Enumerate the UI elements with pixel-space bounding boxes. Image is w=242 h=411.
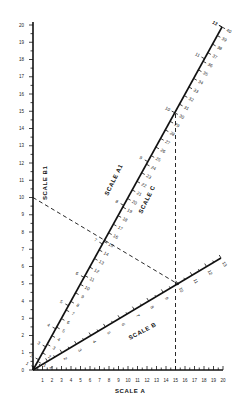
scale-c-tick-label: 6 xyxy=(75,271,80,277)
scale-a1-tick xyxy=(217,36,220,38)
scale-a1-tick-label: 21 xyxy=(136,190,143,197)
scale-c-tick-label: 11 xyxy=(194,52,201,59)
scale-a1-tick xyxy=(109,233,112,235)
scale-a1-tick-label: 12 xyxy=(93,268,100,275)
scale-a1-tick-label: 35 xyxy=(202,70,209,77)
scale-a1-tick-label: 17 xyxy=(117,225,124,232)
scale-a1-tick xyxy=(76,293,79,295)
scale-b-tick xyxy=(46,358,48,361)
scale-a1-tick xyxy=(52,336,55,338)
scale-a-tick-label: 3 xyxy=(60,378,63,383)
scale-a-tick-label: 15 xyxy=(173,378,179,383)
scale-a1-tick-label: 14 xyxy=(103,250,110,257)
scale-b-tick-label: 5 xyxy=(106,331,112,336)
scale-c-tick-label: 3 xyxy=(36,340,41,346)
scale-b-tick xyxy=(205,264,207,267)
scale-a1-tick xyxy=(94,259,97,261)
scale-a-tick-label: 4 xyxy=(70,378,73,383)
scale-a-tick-label: 20 xyxy=(220,378,226,383)
scale-b-tick-label: 8 xyxy=(149,305,155,310)
scale-a1-tick xyxy=(161,138,164,140)
scale-c-tick xyxy=(81,276,84,278)
scale-a1-tick-label: 3 xyxy=(52,345,57,351)
axes-group xyxy=(33,22,223,370)
scale-a1-tick-label: 19 xyxy=(126,208,133,215)
scale-c-tick xyxy=(145,160,148,162)
scale-a1-tick-label: 20 xyxy=(131,199,138,206)
scale-a1-tick xyxy=(142,173,145,175)
scale-a1-tick xyxy=(189,87,192,89)
scale-a1-tick-label: 33 xyxy=(193,88,200,95)
scale-b-tick xyxy=(132,307,134,310)
scale-b-tick-label: 13 xyxy=(221,261,228,268)
scale-a1-tick-label: 34 xyxy=(197,79,204,86)
scale-a1-tick-label: 30 xyxy=(178,113,185,120)
scale-b-tick xyxy=(219,255,221,258)
scale-a1-tick xyxy=(151,156,154,158)
scale-b1-tick-label: 19 xyxy=(19,40,25,45)
scale-b-tick-label: 6 xyxy=(121,322,127,327)
scale-a-tick-label: 12 xyxy=(144,378,150,383)
scale-a1-tick xyxy=(170,121,173,123)
scale-a1-tick-label: 9 xyxy=(80,294,85,300)
scale-a-tick-label: 9 xyxy=(117,378,120,383)
scale-a1-tick xyxy=(222,27,225,29)
scale-a-tick-label: 2 xyxy=(51,378,54,383)
scale-a1-tick xyxy=(123,207,126,209)
scale-b1-tick-label: 2 xyxy=(21,333,24,338)
scale-c-tick xyxy=(121,204,124,206)
scale-c-tick-label: 8 xyxy=(114,199,119,205)
scale-a1-tick-label: 39 xyxy=(221,36,228,43)
scale-a1-tick xyxy=(80,284,83,286)
scale-b1-tick-label: 0 xyxy=(21,368,24,373)
scale-c-tick-label: 13 xyxy=(212,20,219,27)
scale-b-tick xyxy=(161,289,163,292)
scale-b-tick-label: 4 xyxy=(92,339,98,344)
scale-a1-title: SCALE A1 xyxy=(104,163,124,196)
scale-a1-tick xyxy=(213,44,216,46)
scale-a1-tick-label: 4 xyxy=(57,337,62,343)
scale-a1-tick-label: 37 xyxy=(211,53,218,60)
scale-a-tick-label: 6 xyxy=(89,378,92,383)
scale-a-tick-label: 19 xyxy=(211,378,217,383)
scale-c-tick xyxy=(65,304,68,306)
scale-a1-tick-label: 6 xyxy=(66,320,71,326)
scale-a1-tick-label: 22 xyxy=(141,182,148,189)
scale-b-tick-label: 10 xyxy=(178,286,185,293)
scale-b1-title: SCALE B1 xyxy=(42,165,48,200)
scale-b1-tick-label: 8 xyxy=(21,230,24,235)
scale-b1-tick-label: 6 xyxy=(21,264,24,269)
scale-b-tick xyxy=(60,350,62,353)
scale-b-tick xyxy=(147,298,149,301)
scale-b-tick-label: 11 xyxy=(192,278,199,285)
scale-a1-tick xyxy=(85,276,88,278)
scale-b1-tick-label: 11 xyxy=(19,178,24,183)
scale-b1-tick-label: 18 xyxy=(19,57,25,62)
scale-b1-tick-label: 7 xyxy=(21,247,24,252)
scale-a1-tick xyxy=(118,216,121,218)
scale-a1-tick-label: 25 xyxy=(155,156,162,163)
scale-a1-tick-label: 8 xyxy=(76,302,81,308)
scale-a1-tick-label: 31 xyxy=(183,105,190,112)
scale-c-tick-label: 9 xyxy=(139,155,144,161)
scale-b1-tick-label: 10 xyxy=(19,195,25,200)
scale-b-tick xyxy=(104,324,106,327)
scale-a-tick-label: 13 xyxy=(154,378,160,383)
scale-a1-tick-label: 10 xyxy=(84,285,91,292)
scale-a-tick-label: 5 xyxy=(79,378,82,383)
ticks-group xyxy=(29,25,225,370)
scale-a1-tick xyxy=(198,70,201,72)
scale-c-tick-label: 1 xyxy=(25,361,30,367)
scale-a-tick-label: 14 xyxy=(163,378,169,383)
scale-b1-tick-label: 20 xyxy=(19,23,25,28)
scale-b1-tick-label: 13 xyxy=(19,143,25,148)
scale-a1-tick xyxy=(71,301,74,303)
scale-a1-tick xyxy=(99,250,102,252)
scale-a1-tick-label: 11 xyxy=(89,276,96,283)
scale-a1-tick-label: 7 xyxy=(71,311,76,317)
scale-c-tick xyxy=(99,242,102,244)
scale-b1-tick-label: 12 xyxy=(19,161,25,166)
scale-a1-tick xyxy=(47,344,50,346)
scale-a1-tick xyxy=(184,96,187,98)
scale-a1-tick xyxy=(66,310,69,312)
